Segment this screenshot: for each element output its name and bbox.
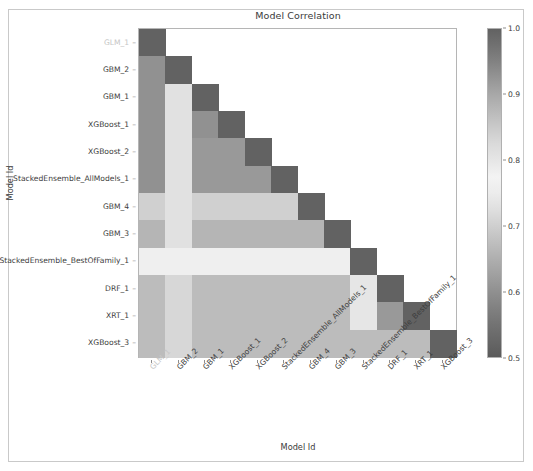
heatmap-cell — [271, 302, 298, 330]
heatmap-cell — [271, 166, 298, 194]
heatmap-cell — [218, 193, 245, 221]
heatmap-cell — [271, 248, 298, 276]
heatmap-cell — [139, 56, 166, 84]
heatmap-axes — [138, 28, 457, 358]
heatmap-cell — [139, 138, 166, 166]
colorbar-tick-label: 0.9 — [508, 90, 520, 99]
y-tick-labels: GLM_1–GBM_2–GBM_1–XGBoost_1–XGBoost_2–St… — [0, 28, 136, 358]
heatmap-cell — [192, 193, 219, 221]
heatmap-cell — [218, 302, 245, 330]
heatmap-cell — [245, 248, 272, 276]
y-tick-XRT_1: XRT_1– — [106, 311, 136, 320]
heatmap-cell — [165, 220, 192, 248]
heatmap-cell — [218, 166, 245, 194]
colorbar-tick-1.0: 1.0 — [503, 24, 520, 33]
colorbar-tick-0.9: 0.9 — [503, 90, 520, 99]
heatmap-cell — [192, 220, 219, 248]
heatmap-cell — [245, 193, 272, 221]
heatmap-cell — [165, 302, 192, 330]
y-tick-GLM_1: GLM_1– — [104, 37, 136, 46]
colorbar-tick-label: 0.5 — [508, 354, 520, 363]
heatmap-cell — [298, 275, 325, 303]
matplotlib-figure: Model Correlation Model Id GLM_1–GBM_2–G… — [0, 0, 533, 471]
y-tick-mark: – — [132, 338, 136, 347]
heatmap-cell — [218, 111, 245, 139]
colorbar-tick-mark — [503, 226, 506, 227]
heatmap-cell — [192, 138, 219, 166]
heatmap-cell — [324, 248, 351, 276]
colorbar-tick-mark — [503, 160, 506, 161]
y-tick-mark: – — [132, 174, 136, 183]
heatmap-cell — [139, 248, 166, 276]
colorbar-tick-0.6: 0.6 — [503, 288, 520, 297]
heatmap-cell — [165, 166, 192, 194]
heatmap-cell — [192, 111, 219, 139]
heatmap-cell — [139, 302, 166, 330]
y-tick-mark: – — [132, 37, 136, 46]
heatmap-cell — [377, 275, 404, 303]
heatmap-cell — [218, 220, 245, 248]
heatmap-cell — [165, 111, 192, 139]
colorbar: 1.00.90.80.70.60.5 — [487, 28, 531, 358]
y-tick-mark: – — [132, 65, 136, 74]
heatmap-cell — [350, 248, 377, 276]
heatmap-cell — [192, 275, 219, 303]
y-tick-XGBoost_3: XGBoost_3– — [88, 338, 136, 347]
colorbar-tick-mark — [503, 292, 506, 293]
heatmap-cell — [218, 248, 245, 276]
heatmap-cell — [298, 248, 325, 276]
heatmap-cell — [165, 248, 192, 276]
heatmap-cell — [165, 193, 192, 221]
heatmap-cell — [324, 220, 351, 248]
heatmap-cell — [139, 166, 166, 194]
y-tick-mark: – — [132, 201, 136, 210]
heatmap-cell — [139, 220, 166, 248]
heatmap-cell — [350, 302, 377, 330]
y-tick-mark: – — [132, 283, 136, 292]
heatmap-cell — [165, 84, 192, 112]
colorbar-tick-0.8: 0.8 — [503, 156, 520, 165]
heatmap-cell — [165, 138, 192, 166]
heatmap-cell — [298, 193, 325, 221]
y-tick-StackedEnsemble_BestOfFamily_1: StackedEnsemble_BestOfFamily_1– — [0, 256, 136, 265]
heatmap-cell — [271, 193, 298, 221]
y-tick-mark: – — [132, 256, 136, 265]
y-tick-mark: – — [132, 311, 136, 320]
colorbar-tick-mark — [503, 94, 506, 95]
heatmap-grid — [139, 29, 456, 357]
colorbar-tick-mark — [503, 358, 506, 359]
heatmap-cell — [245, 275, 272, 303]
heatmap-cell — [218, 275, 245, 303]
heatmap-cell — [139, 84, 166, 112]
heatmap-cell — [139, 193, 166, 221]
heatmap-cell — [245, 166, 272, 194]
y-tick-mark: – — [132, 119, 136, 128]
heatmap-cell — [165, 56, 192, 84]
colorbar-tick-label: 1.0 — [508, 24, 520, 33]
heatmap-cell — [165, 275, 192, 303]
y-tick-mark: – — [132, 229, 136, 238]
heatmap-cell — [298, 220, 325, 248]
colorbar-tick-mark — [503, 28, 506, 29]
heatmap-cell — [192, 302, 219, 330]
heatmap-cell — [245, 302, 272, 330]
y-tick-mark: – — [132, 147, 136, 156]
heatmap-cell — [139, 275, 166, 303]
y-tick-mark: – — [132, 92, 136, 101]
colorbar-tick-0.5: 0.5 — [503, 354, 520, 363]
heatmap-cell — [245, 138, 272, 166]
heatmap-cell — [271, 275, 298, 303]
colorbar-tick-label: 0.8 — [508, 156, 520, 165]
heatmap-cell — [218, 138, 245, 166]
heatmap-cell — [139, 29, 166, 57]
y-tick-GBM_2: GBM_2– — [103, 65, 136, 74]
heatmap-cell — [245, 220, 272, 248]
heatmap-cell — [192, 84, 219, 112]
colorbar-tick-label: 0.6 — [508, 288, 520, 297]
y-tick-GBM_1: GBM_1– — [103, 92, 136, 101]
colorbar-tick-label: 0.7 — [508, 222, 520, 231]
y-tick-StackedEnsemble_AllModels_1: StackedEnsemble_AllModels_1– — [13, 174, 136, 183]
heatmap-cell — [139, 111, 166, 139]
x-axis-label: Model Id — [138, 442, 458, 452]
y-tick-GBM_4: GBM_4– — [103, 201, 136, 210]
